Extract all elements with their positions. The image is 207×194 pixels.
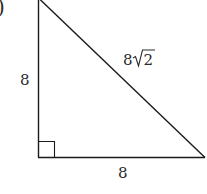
vertical-leg-label: 8 bbox=[20, 71, 30, 89]
hypotenuse bbox=[39, 0, 206, 158]
hypotenuse-label: 8 2 bbox=[123, 50, 155, 69]
hypotenuse-radicand: 2 bbox=[144, 51, 154, 69]
option-label-fragment: ) bbox=[0, 0, 5, 19]
hypotenuse-coefficient: 8 bbox=[123, 51, 133, 69]
horizontal-leg-label: 8 bbox=[118, 164, 128, 182]
right-triangle-diagram: ) 8 8 8 2 bbox=[0, 0, 207, 194]
right-angle-marker bbox=[39, 142, 55, 158]
